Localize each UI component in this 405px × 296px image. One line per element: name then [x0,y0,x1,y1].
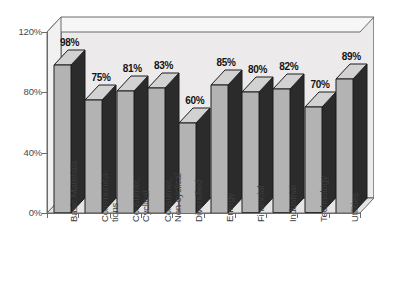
y-axis-tick-label: 80% [2,86,42,97]
bar-value-label: 83% [142,60,185,71]
bar-side-face [353,64,367,213]
x-axis-category-label: Utilities [350,193,360,222]
bar-side-face [228,70,242,213]
y-axis-tick-label: 0% [2,207,42,218]
x-axis-category-line: Utilities [350,193,360,222]
bar-value-label: 60% [173,95,216,106]
y-axis-tick-label: 40% [2,147,42,158]
x-axis-category-line: Financial [256,186,266,222]
bar-value-label: 70% [299,79,342,90]
x-axis-category-label: Energy [225,193,235,222]
x-axis-category-line: Diversified [194,180,204,222]
bar [211,70,242,213]
x-axis-category-line: Energy [225,193,235,222]
x-axis-category-line: Technology [319,176,329,222]
x-axis-category-line: Industrial [288,185,298,222]
x-axis-category-label: Industrial [288,185,298,222]
x-axis-tick-mark [360,213,361,218]
y-axis-line [47,32,48,213]
x-axis-category-label: Technology [319,176,329,222]
bar-value-label: 89% [330,51,373,62]
bar-chart: 0%40%80%120% 98%75%81%83%60%85%80%82%70%… [0,0,405,296]
x-axis-category-line: tions [110,170,120,222]
y-axis-tick-label: 120% [2,26,42,37]
x-axis-category-line: Cyclical [141,178,151,222]
x-axis-line [47,213,360,214]
x-axis-category-label: Financial [256,186,266,222]
bar-value-label: 82% [267,61,310,72]
x-axis-category-line: Non-cyclical [173,173,183,222]
bar-value-label: 98% [48,37,91,48]
x-axis-category-label: Diversified [194,180,204,222]
